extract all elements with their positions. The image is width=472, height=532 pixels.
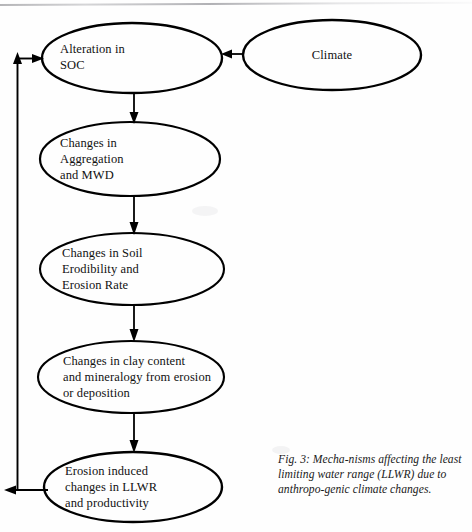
node-label-changes-aggregation: Changes in Aggregation and MWD — [60, 135, 200, 183]
edge-soc-to-aggregation — [130, 93, 139, 124]
edge-erodibility-to-clay — [130, 305, 139, 342]
node-label-changes-soil-erodibility: Changes in Soil Erodibility and Erosion … — [62, 245, 212, 293]
node-label-climate: Climate — [272, 47, 392, 63]
edge-clay-to-llwr — [130, 413, 139, 453]
edge-aggregation-to-erodibility — [130, 196, 139, 235]
node-label-erosion-induced-llwr: Erosion induced changes in LLWR and prod… — [65, 463, 215, 511]
node-label-alteration-soc: Alteration in SOC — [60, 41, 190, 73]
figure-caption: Fig. 3: Mecha-nisms affecting the least … — [278, 452, 464, 498]
edge-climate-to-soc — [221, 50, 243, 59]
node-label-changes-clay-content: Changes in clay content and mineralogy f… — [63, 353, 233, 401]
figure-diagram: Alteration in SOC Climate Changes in Agg… — [0, 0, 472, 532]
